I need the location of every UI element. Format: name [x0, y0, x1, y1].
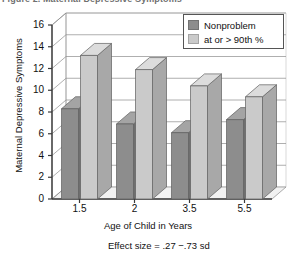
gridline-connector: [52, 78, 66, 90]
legend-label-nonproblem: Nonproblem: [204, 20, 256, 31]
x-tick-label: 2: [115, 203, 155, 214]
y-tick-label: 4: [18, 151, 44, 161]
bar-side: [263, 85, 277, 199]
x-tick-label: 3.5: [170, 203, 210, 214]
bar-front: [172, 133, 189, 199]
x-axis-title: Age of Child in Years: [48, 220, 248, 231]
y-tick-label: 8: [18, 107, 44, 117]
bar-front: [62, 109, 79, 199]
bar-front: [117, 124, 134, 199]
bar-front: [191, 86, 208, 199]
y-tick-label: 0: [18, 194, 44, 204]
x-tick-label: 5.5: [225, 203, 265, 214]
bar-side: [208, 74, 222, 199]
legend-item-nonproblem: Nonproblem: [188, 18, 279, 32]
effect-size-annotation: Effect size = .27 −.73 sd: [108, 240, 283, 251]
gridline-connector: [52, 57, 66, 69]
y-tick-label: 2: [18, 172, 44, 182]
x-tick-label: 1.5: [60, 203, 100, 214]
legend-label-at-or-above-90th: at or > 90th %: [204, 34, 263, 45]
bar-front: [81, 55, 98, 199]
bar-side: [153, 58, 167, 199]
gridline-connector: [52, 35, 66, 47]
bar-front: [227, 120, 244, 199]
y-tick-label: 6: [18, 129, 44, 139]
y-tick-label: 10: [18, 85, 44, 95]
legend-item-at-or-above-90th: at or > 90th %: [188, 32, 279, 46]
legend-swatch-nonproblem: [188, 20, 199, 30]
bar-front: [136, 70, 153, 199]
y-tick-label: 16: [18, 20, 44, 30]
legend-swatch-at-or-above-90th: [188, 34, 199, 44]
y-tick-label: 14: [18, 42, 44, 52]
y-tick-label: 12: [18, 64, 44, 74]
bar-front: [246, 97, 263, 199]
figure-container: Figure 2. Maternal Depressive Symptoms M…: [0, 0, 288, 259]
bar-side: [98, 43, 112, 199]
legend: Nonproblem at or > 90th %: [183, 14, 284, 49]
